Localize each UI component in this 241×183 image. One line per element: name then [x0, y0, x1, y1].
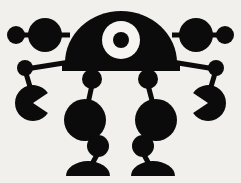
right-knee-joint	[135, 99, 177, 141]
left-antenna-inner-circle-icon	[28, 18, 62, 52]
left-hip-joint	[82, 69, 102, 89]
robot-illustration-canvas: One-eyed robot silhouette	[0, 0, 241, 183]
right-antenna-tip-circle-icon	[216, 26, 234, 44]
eye-pupil	[113, 32, 129, 48]
robot-silhouette-svg	[0, 0, 241, 183]
head-base-bar	[62, 63, 180, 71]
right-ankle-joint	[132, 135, 154, 157]
right-hip-joint	[138, 69, 158, 89]
right-antenna-inner-circle-icon	[179, 18, 213, 52]
right-elbow-joint	[208, 60, 224, 76]
left-elbow-joint	[17, 60, 33, 76]
left-knee-joint	[64, 99, 106, 141]
left-ankle-joint	[87, 135, 109, 157]
left-antenna-tip-circle-icon	[7, 26, 25, 44]
